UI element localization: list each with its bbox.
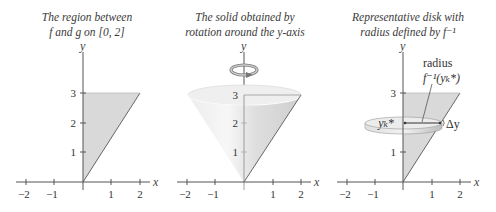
x-axis-label: x [313, 175, 320, 189]
x-tick-label: −1 [46, 188, 58, 200]
panel1-title-line2: f and g on [0, 2] [49, 26, 124, 39]
panel3-title-line1: Representative disk with [351, 11, 464, 24]
y-axis-label: y [240, 39, 247, 53]
y-tick-label: 1 [71, 146, 77, 158]
y-tick-label: 3 [71, 87, 77, 99]
y-tick-label: 2 [71, 117, 77, 129]
delta-y-label: Δy [446, 117, 460, 131]
y-tick-label: 3 [233, 89, 239, 101]
x-tick-label: −2 [18, 188, 30, 200]
y-tick-label: 3 [391, 87, 397, 99]
panel-disk: Representative disk with radius defined … [337, 11, 480, 200]
y-tick-label: 2 [233, 117, 239, 129]
radius-formula: f⁻¹(yₖ*) [423, 71, 460, 85]
x-tick-label: −2 [339, 188, 351, 200]
panel1-title-line1: The region between [42, 11, 133, 24]
x-tick-label: 1 [429, 188, 435, 200]
panel-region: The region between f and g on [0, 2] x y… [16, 11, 159, 200]
x-tick-label: 2 [137, 188, 143, 200]
x-tick-label: 2 [457, 188, 463, 200]
diagram-canvas: The region between f and g on [0, 2] x y… [0, 0, 496, 212]
x-tick-label: 2 [298, 188, 304, 200]
x-tick-label: 1 [108, 188, 114, 200]
panel3-title-line2: radius defined by f⁻¹ [360, 26, 456, 39]
x-tick-label: −2 [179, 188, 191, 200]
x-tick-label: −1 [367, 188, 379, 200]
panel2-title-line2: rotation around the y-axis [185, 26, 305, 39]
radius-label: radius [423, 56, 453, 70]
x-axis-label: x [473, 175, 480, 189]
panel-solid: The solid obtained by rotation around th… [177, 11, 320, 200]
y-axis-label: y [399, 39, 406, 53]
panel2-title-line1: The solid obtained by [195, 11, 295, 24]
yk-star-label: yₖ* [377, 116, 394, 130]
x-tick-label: −1 [207, 188, 219, 200]
y-tick-label: 1 [233, 146, 239, 158]
y-axis-label: y [79, 39, 86, 53]
cone-body [188, 95, 301, 182]
x-axis-label: x [152, 175, 159, 189]
y-tick-label: 1 [391, 146, 397, 158]
x-tick-label: 1 [270, 188, 276, 200]
